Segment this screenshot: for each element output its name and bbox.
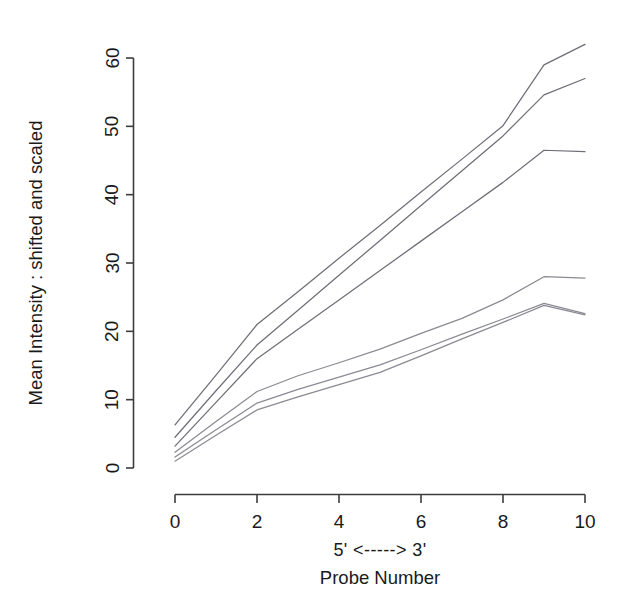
x-axis: 0246810 [170,495,596,533]
x-tick-label-2: 2 [252,511,263,532]
x-axis-tick-labels: 0246810 [170,511,596,532]
series-lines-group [175,44,585,461]
y-tick-label-0: 0 [102,463,123,474]
y-tick-label-50: 50 [102,116,123,137]
y-tick-label-20: 20 [102,321,123,342]
x-tick-label-8: 8 [498,511,509,532]
series-line-3 [175,150,585,446]
y-axis-tick-labels: 0102030405060 [102,47,123,473]
series-line-2 [175,79,585,438]
x-tick-label-6: 6 [416,511,427,532]
x-tick-label-4: 4 [334,511,345,532]
x-axis-ticks [175,495,585,504]
x-axis-title: Probe Number [320,567,440,588]
y-tick-label-30: 30 [102,252,123,273]
y-axis: 0102030405060 [102,47,134,473]
y-axis-title: Mean Intensity : shifted and scaled [25,121,46,406]
chart-canvas: 0102030405060 0246810 Mean Intensity : s… [0,0,625,612]
y-tick-label-10: 10 [102,389,123,410]
degradation-plot-figure: 0102030405060 0246810 Mean Intensity : s… [0,0,625,612]
y-axis-ticks [126,58,134,468]
series-line-6 [175,305,585,461]
y-tick-label-40: 40 [102,184,123,205]
y-tick-label-60: 60 [102,47,123,68]
x-tick-label-10: 10 [574,511,595,532]
x-tick-label-0: 0 [170,511,181,532]
x-axis-direction-label: 5' <-----> 3' [333,540,426,560]
